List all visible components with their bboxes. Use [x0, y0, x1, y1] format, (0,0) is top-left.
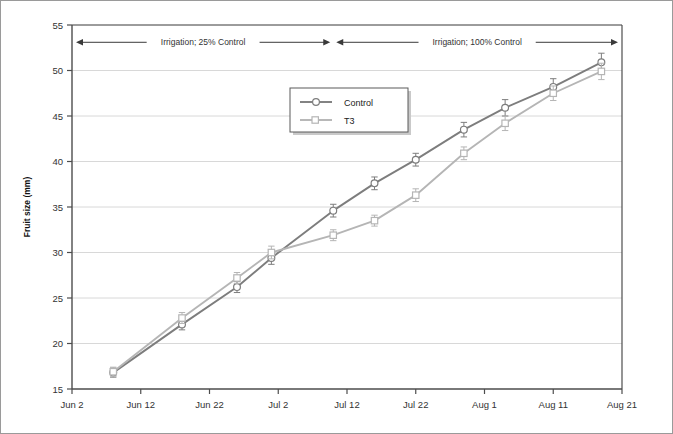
data-point-marker[interactable]: [234, 284, 241, 291]
x-tick-label: Jun 2: [60, 399, 83, 410]
data-point-marker[interactable]: [330, 232, 336, 238]
legend[interactable]: ControlT3: [290, 88, 411, 135]
legend-label: Control: [344, 98, 373, 108]
x-tick-label: Aug 1: [472, 399, 497, 410]
y-tick-label: 20: [52, 338, 63, 349]
figure-border: [1, 1, 673, 434]
data-point-marker[interactable]: [598, 68, 604, 74]
y-tick-label: 40: [52, 156, 63, 167]
y-tick-label: 15: [52, 384, 63, 395]
x-tick-label: Jul 22: [403, 399, 428, 410]
data-point-marker[interactable]: [234, 275, 240, 281]
data-point-marker[interactable]: [110, 369, 116, 375]
chart-container: 152025303540455055Fruit size (mm)Jun 2Ju…: [0, 0, 673, 434]
data-point-marker[interactable]: [413, 192, 419, 198]
x-tick-label: Jun 12: [126, 399, 155, 410]
y-axis-title: Fruit size (mm): [22, 177, 32, 238]
legend-label: T3: [344, 116, 355, 126]
data-point-marker[interactable]: [550, 90, 556, 96]
annotation-label: Irrigation; 100% Control: [432, 37, 521, 47]
legend-swatch-marker: [313, 99, 320, 106]
x-tick-label: Aug 21: [607, 399, 637, 410]
x-tick-label: Jun 22: [195, 399, 224, 410]
data-point-marker[interactable]: [460, 126, 467, 133]
data-point-marker[interactable]: [330, 207, 337, 214]
x-tick-label: Jul 12: [334, 399, 359, 410]
data-point-marker[interactable]: [268, 249, 274, 255]
data-point-marker[interactable]: [371, 217, 377, 223]
legend-swatch-marker: [312, 117, 318, 123]
y-tick-label: 50: [52, 65, 63, 76]
x-tick-label: Jul 2: [268, 399, 288, 410]
data-point-marker[interactable]: [502, 104, 509, 111]
data-point-marker[interactable]: [179, 315, 185, 321]
fruit-size-line-chart: 152025303540455055Fruit size (mm)Jun 2Ju…: [0, 0, 673, 434]
data-point-marker[interactable]: [502, 120, 508, 126]
y-tick-label: 30: [52, 247, 63, 258]
data-point-marker[interactable]: [412, 156, 419, 163]
y-tick-label: 25: [52, 293, 63, 304]
data-point-marker[interactable]: [371, 180, 378, 187]
annotation-label: Irrigation; 25% Control: [161, 37, 246, 47]
y-tick-label: 45: [52, 111, 63, 122]
data-point-marker[interactable]: [461, 150, 467, 156]
y-tick-label: 35: [52, 202, 63, 213]
y-tick-label: 55: [52, 20, 63, 31]
x-tick-label: Aug 11: [539, 399, 568, 410]
